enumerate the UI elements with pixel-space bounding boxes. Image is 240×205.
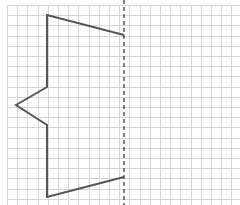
symmetry-diagram xyxy=(0,0,240,205)
